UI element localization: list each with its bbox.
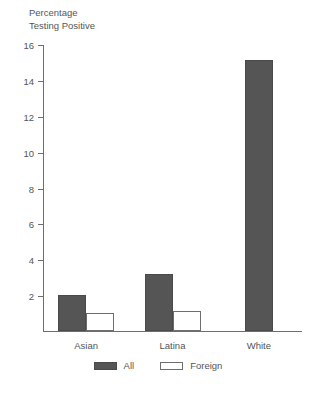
bar-latina-foreign (173, 311, 201, 331)
y-tick-mark (38, 224, 43, 225)
y-axis-line (43, 45, 44, 332)
y-tick-mark (38, 117, 43, 118)
y-tick-label: 6 (29, 219, 34, 230)
legend-label-foreign: Foreign (190, 360, 222, 371)
y-tick-mark (38, 45, 43, 46)
chart-legend: All Foreign (0, 360, 316, 371)
y-tick-label: 16 (23, 40, 34, 51)
cut-off-caption (0, 388, 316, 397)
y-tick-label: 14 (23, 75, 34, 86)
y-tick-label: 10 (23, 147, 34, 158)
legend-swatch-all (94, 362, 117, 370)
plot-area: 246810121416 AsianLatinaWhite (43, 45, 302, 332)
legend-swatch-foreign (160, 362, 183, 370)
bar-asian-all (58, 295, 86, 331)
bar-latina-all (145, 274, 173, 331)
y-tick-mark (38, 296, 43, 297)
y-tick-label: 8 (29, 183, 34, 194)
legend-item-foreign: Foreign (160, 360, 222, 371)
legend-item-all: All (94, 360, 135, 371)
y-tick-mark (38, 81, 43, 82)
y-tick-mark (38, 153, 43, 154)
bar-asian-foreign (86, 313, 114, 331)
bar-chart-figure: Percentage Testing Positive 246810121416… (0, 0, 316, 397)
x-axis-line (43, 331, 302, 332)
y-tick-label: 12 (23, 111, 34, 122)
y-axis-title: Percentage Testing Positive (29, 7, 95, 32)
x-label-latina: Latina (160, 340, 186, 351)
legend-label-all: All (124, 360, 135, 371)
y-tick-mark (38, 260, 43, 261)
y-tick-label: 2 (29, 291, 34, 302)
x-label-white: White (247, 340, 271, 351)
bar-white-all (245, 60, 273, 331)
x-label-asian: Asian (74, 340, 98, 351)
y-tick-label: 4 (29, 255, 34, 266)
y-tick-mark (38, 189, 43, 190)
